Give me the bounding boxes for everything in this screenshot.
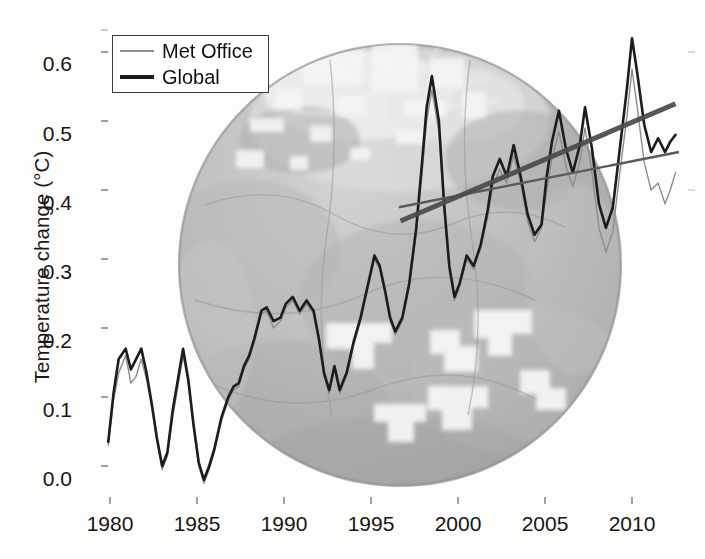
plot-area (0, 0, 705, 559)
legend-entry-global: Global (120, 64, 220, 90)
legend: Met Office Global (112, 35, 269, 93)
temperature-change-chart: Temperature change (°C) 0.6 0.5 0.4 0.3 … (0, 0, 705, 559)
legend-label-global: Global (162, 66, 220, 89)
legend-label-met-office: Met Office (162, 40, 253, 63)
legend-swatch-global-icon (120, 75, 154, 79)
legend-swatch-met-office-icon (120, 50, 154, 52)
legend-entry-met-office: Met Office (120, 38, 253, 64)
